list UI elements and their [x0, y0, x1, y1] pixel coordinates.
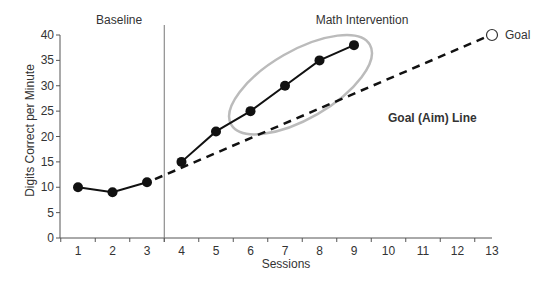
- goal-marker: [487, 30, 498, 41]
- y-tick-label: 10: [41, 180, 55, 194]
- x-tick-label: 3: [144, 244, 151, 258]
- x-tick-label: 13: [485, 244, 499, 258]
- data-point: [280, 81, 290, 91]
- x-tick-label: 5: [213, 244, 220, 258]
- progress-monitoring-chart: 051015202530354012345678910111213 Sessio…: [0, 0, 552, 283]
- y-tick-label: 40: [41, 28, 55, 42]
- data-point: [108, 187, 118, 197]
- data-point: [73, 182, 83, 192]
- x-tick-label: 6: [247, 244, 254, 258]
- phase-label-baseline: Baseline: [96, 13, 142, 27]
- goal-aim-line-label: Goal (Aim) Line: [388, 111, 477, 125]
- data-point: [142, 177, 152, 187]
- y-axis-title: Digits Correct per Minute: [23, 64, 37, 197]
- y-tick-label: 15: [41, 155, 55, 169]
- axes: [60, 25, 492, 242]
- data-point: [315, 55, 325, 65]
- x-axis-title: Sessions: [262, 257, 311, 271]
- x-tick-label: 8: [316, 244, 323, 258]
- x-tick-label: 12: [451, 244, 465, 258]
- data-point: [177, 157, 187, 167]
- x-tick-label: 11: [417, 244, 430, 258]
- data-point: [211, 126, 221, 136]
- goal-label: Goal: [505, 28, 530, 42]
- plot-area: [73, 15, 498, 197]
- y-tick-label: 35: [41, 53, 55, 67]
- x-tick-label: 10: [382, 244, 396, 258]
- x-tick-label: 2: [109, 244, 116, 258]
- x-tick-label: 1: [75, 244, 82, 258]
- phase-label-intervention: Math Intervention: [316, 13, 409, 27]
- x-tick-label: 7: [282, 244, 289, 258]
- y-tick-label: 25: [41, 104, 55, 118]
- y-tick-label: 0: [47, 231, 54, 245]
- y-tick-label: 20: [41, 130, 55, 144]
- highlight-ellipse: [214, 15, 387, 154]
- data-point: [246, 106, 256, 116]
- data-point: [349, 40, 359, 50]
- y-tick-label: 5: [47, 206, 54, 220]
- x-tick-label: 4: [178, 244, 185, 258]
- y-tick-label: 30: [41, 79, 55, 93]
- x-tick-label: 9: [351, 244, 358, 258]
